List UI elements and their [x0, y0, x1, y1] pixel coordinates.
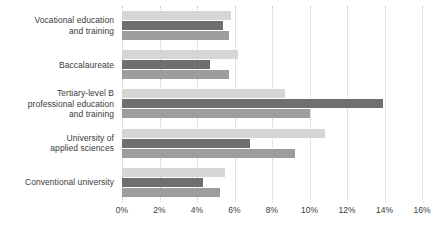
y-axis-label: Tertiary-level Bprofessional educationan… — [0, 88, 114, 120]
bar-group — [122, 163, 422, 202]
bar — [122, 89, 285, 98]
y-axis-label: University ofapplied sciences — [0, 133, 114, 154]
x-axis-tick-label: 0% — [116, 204, 128, 216]
x-axis-tick-label: 12% — [338, 204, 355, 216]
gridline-16pct — [422, 6, 424, 202]
x-axis-tick-label: 14% — [376, 204, 393, 216]
y-axis-label-line: and training — [0, 26, 114, 37]
bar — [122, 60, 210, 69]
bar — [122, 188, 220, 197]
y-axis-label-line: University of — [0, 133, 114, 144]
bar — [122, 31, 229, 40]
x-axis-tick-label: 16% — [413, 204, 430, 216]
x-axis-ticks: 0%2%4%6%8%10%12%14%16% — [122, 204, 422, 222]
x-axis-tick-label: 2% — [153, 204, 165, 216]
y-axis-label-line: and training — [0, 109, 114, 120]
bar — [122, 168, 225, 177]
bar-groups — [122, 6, 422, 202]
y-axis-label-line: professional education — [0, 99, 114, 110]
x-axis-tick-label: 10% — [301, 204, 318, 216]
bar — [122, 149, 295, 158]
x-axis-tick-label: 6% — [228, 204, 240, 216]
y-axis-label-line: Conventional university — [0, 177, 114, 188]
bar — [122, 70, 229, 79]
bar — [122, 178, 203, 187]
y-axis-label-line: Tertiary-level B — [0, 88, 114, 99]
bar-group — [122, 6, 422, 45]
y-axis-label-line: Vocational education — [0, 15, 114, 26]
y-axis-label-line: applied sciences — [0, 143, 114, 154]
bar-group — [122, 84, 422, 123]
y-axis-label: Baccalaureate — [0, 60, 114, 71]
y-axis-label-line: Baccalaureate — [0, 60, 114, 71]
bar — [122, 99, 383, 108]
bar — [122, 21, 223, 30]
bar-group — [122, 45, 422, 84]
bar-group — [122, 124, 422, 163]
y-axis-label: Vocational educationand training — [0, 15, 114, 36]
y-axis-labels: Vocational educationand trainingBaccalau… — [0, 6, 118, 202]
x-axis-tick-label: 4% — [191, 204, 203, 216]
bar — [122, 139, 250, 148]
plot-area — [122, 6, 422, 202]
bar — [122, 109, 310, 118]
y-axis-label: Conventional university — [0, 177, 114, 188]
bar-chart: Vocational educationand trainingBaccalau… — [0, 0, 444, 236]
bar — [122, 129, 325, 138]
bar — [122, 50, 238, 59]
x-axis-tick-label: 8% — [266, 204, 278, 216]
bar — [122, 11, 231, 20]
